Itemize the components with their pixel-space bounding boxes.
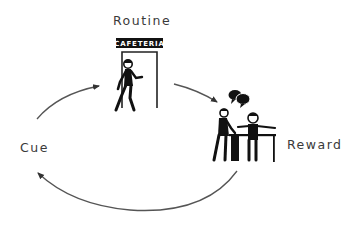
- walking-person-icon: [116, 60, 142, 111]
- routine-label: Routine: [113, 13, 171, 28]
- arrow-cue-to-routine: [37, 86, 99, 119]
- cue-label: Cue: [20, 140, 49, 155]
- speech-bubbles-icon: [229, 90, 251, 108]
- habit-loop-diagram: CAFETERIA: [0, 0, 358, 225]
- cafeteria-sign-text: CAFETERIA: [114, 40, 164, 48]
- arrow-reward-to-cue: [38, 171, 237, 211]
- seated-person-icon: [238, 113, 275, 160]
- reward-label: Reward: [287, 137, 343, 152]
- reward-illustration: [214, 90, 276, 162]
- routine-illustration: CAFETERIA: [114, 38, 164, 110]
- arrow-routine-to-reward: [174, 84, 217, 102]
